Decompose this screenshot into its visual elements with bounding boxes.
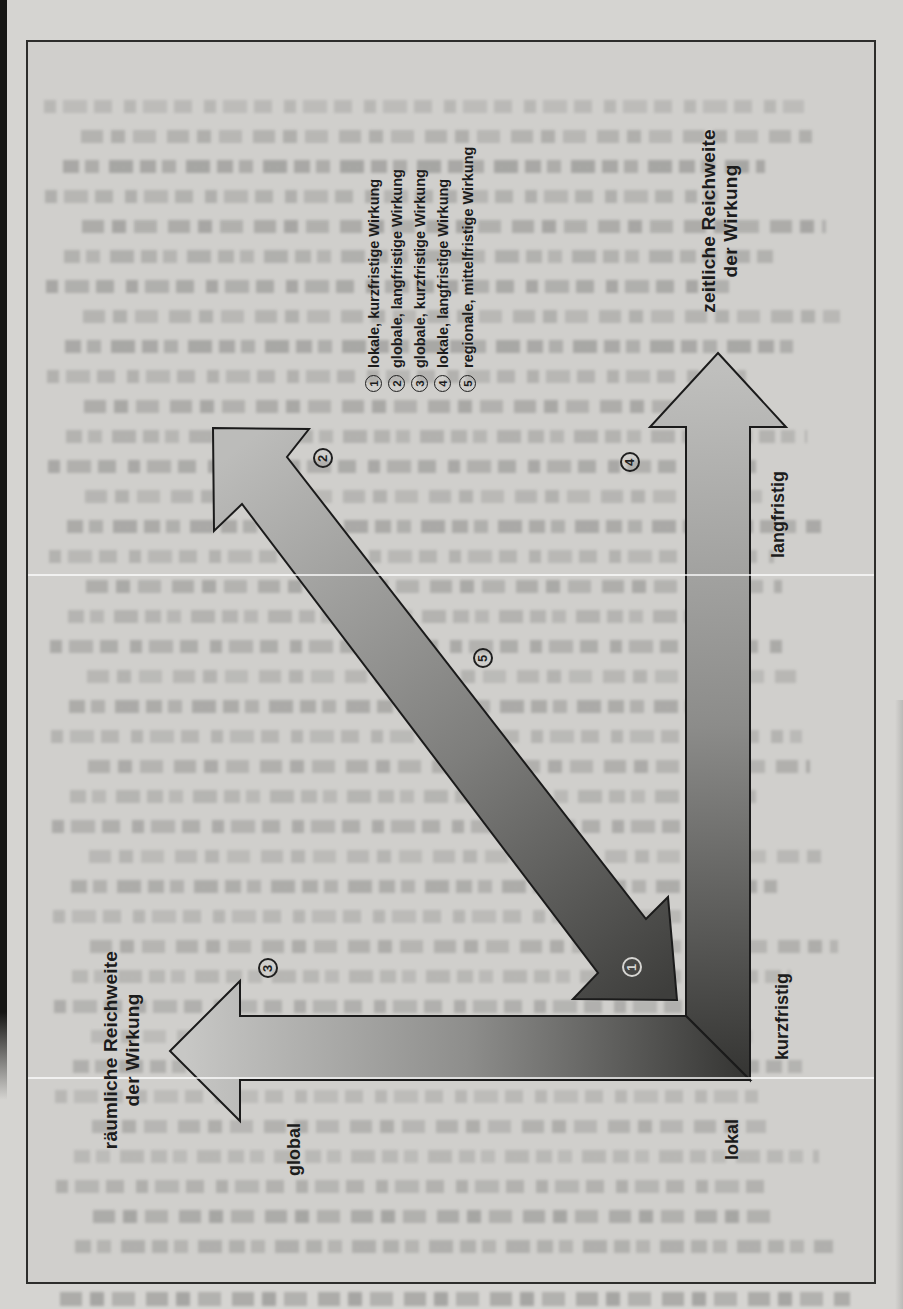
legend-label-4: lokale, langfristige Wirkung xyxy=(435,179,451,368)
legend-item-1: 1 lokale, kurzfristige Wirkung xyxy=(362,127,385,392)
diagram-marker-2: 2 xyxy=(313,448,333,468)
legend-item-2: 2 globale, langfristige Wirkung xyxy=(385,127,408,392)
scan-edge-strip xyxy=(0,0,7,1100)
time-axis-near-label: kurzfristig xyxy=(772,958,794,1060)
time-axis-title: zeitliche Reichweite der Wirkung xyxy=(698,120,742,322)
circled-number-icon: 2 xyxy=(388,375,405,392)
diagram-marker-1: 1 xyxy=(622,957,642,977)
legend-label-1: lokale, kurzfristige Wirkung xyxy=(366,179,382,368)
scan-fold-line xyxy=(28,1077,874,1079)
space-axis-arrow xyxy=(170,981,750,1121)
space-axis-title: räumliche Reichweite der Wirkung xyxy=(100,945,146,1155)
circled-number-icon: 1 xyxy=(365,375,382,392)
time-axis-far-label: langfristig xyxy=(768,456,790,558)
circled-number-icon: 4 xyxy=(434,375,451,392)
legend-item-3: 3 globale, kurzfristige Wirkung xyxy=(408,127,431,392)
diagram-marker-3: 3 xyxy=(258,958,278,978)
space-axis-title-line2: der Wirkung xyxy=(122,945,144,1155)
legend-label-3: globale, kurzfristige Wirkung xyxy=(412,169,428,368)
legend-item-4: 4 lokale, langfristige Wirkung xyxy=(431,127,454,392)
legend-label-2: globale, langfristige Wirkung xyxy=(389,169,405,368)
time-axis-title-line2: der Wirkung xyxy=(720,120,742,322)
space-axis-near-label: lokal xyxy=(722,1104,742,1160)
diagram-marker-4: 4 xyxy=(620,452,640,472)
scan-fold-line xyxy=(28,574,874,576)
space-axis-far-label: global xyxy=(284,1108,306,1176)
circled-number-icon: 3 xyxy=(411,375,428,392)
diagram-marker-5: 5 xyxy=(473,648,493,668)
circled-number-icon: 5 xyxy=(459,375,476,392)
scanned-book-page: zeitliche Reichweite der Wirkung räumlic… xyxy=(0,0,903,1309)
diagonal-double-arrow xyxy=(213,428,677,1000)
legend-label-5: regionale, mittelfristige Wirkung xyxy=(460,147,476,368)
time-axis-title-line1: zeitliche Reichweite xyxy=(698,120,720,322)
legend-item-5: 5 regionale, mittelfristige Wirkung xyxy=(456,127,479,392)
scan-edge-shade xyxy=(895,700,903,1309)
space-axis-title-line1: räumliche Reichweite xyxy=(100,945,122,1155)
